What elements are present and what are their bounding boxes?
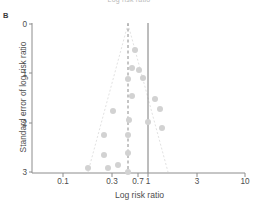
data-point xyxy=(129,93,135,99)
data-point xyxy=(101,132,107,138)
data-point xyxy=(157,106,163,112)
data-point xyxy=(159,125,165,131)
data-point xyxy=(145,119,151,125)
data-point xyxy=(101,152,107,158)
data-point xyxy=(110,108,116,114)
data-point xyxy=(132,47,138,53)
data-point xyxy=(125,169,131,175)
plot-canvas xyxy=(0,0,258,205)
data-point xyxy=(85,165,91,171)
data-point xyxy=(152,96,158,102)
data-point xyxy=(125,150,131,156)
data-point xyxy=(115,162,121,168)
data-point xyxy=(125,76,131,82)
data-point xyxy=(129,65,135,71)
data-point xyxy=(140,75,146,81)
data-points xyxy=(85,47,165,175)
axis-lines xyxy=(32,23,245,173)
funnel-plot-figure: Log risk ratio B Standard error of log r… xyxy=(0,0,258,205)
data-point xyxy=(136,67,142,73)
data-point xyxy=(125,132,131,138)
data-point xyxy=(126,117,132,123)
axis-tick-marks xyxy=(29,24,245,177)
funnel-left-boundary xyxy=(88,24,128,172)
data-point xyxy=(105,165,111,171)
